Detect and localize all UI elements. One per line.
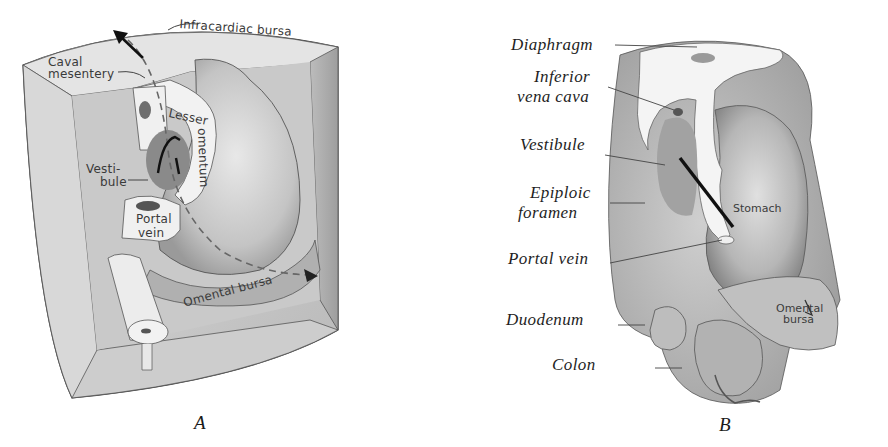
label-duodenum: Duodenum xyxy=(506,311,584,328)
label-omental-bursa-line2: bursa xyxy=(783,314,814,325)
label-epiploic-foramen-line1: Epiploic xyxy=(530,184,591,201)
label-epiploic-foramen-line2: foramen xyxy=(518,204,577,221)
label-diaphragm: Diaphragm xyxy=(511,36,593,53)
label-inferior-vena-cava-line2: vena cava xyxy=(517,88,589,105)
figure-a-caption: A xyxy=(194,412,206,434)
figure-b-specimen-view: Diaphragm Inferior vena cava Vestibule E… xyxy=(460,0,888,447)
label-vestibule-line1: Vesti- xyxy=(86,163,120,175)
label-vestibule-line2: bule xyxy=(100,176,127,188)
figure-b-illustration xyxy=(460,0,888,447)
label-inferior-vena-cava-line1: Inferior xyxy=(534,68,590,85)
figure-a-omental-bursa-cutaway: Infracardiac bursa Caval mesentery Lesse… xyxy=(0,0,440,447)
label-lesser-omentum-line2: omentum xyxy=(196,128,210,188)
label-portal-vein-line2: vein xyxy=(138,227,164,239)
label-portal-vein: Portal vein xyxy=(508,250,588,267)
label-caval-mesentery-line2: mesentery xyxy=(48,68,114,80)
label-colon: Colon xyxy=(552,356,596,373)
label-stomach: Stomach xyxy=(733,203,782,214)
label-vestibule: Vestibule xyxy=(520,136,585,153)
label-portal-vein-line1: Portal xyxy=(136,213,172,225)
figure-b-caption: B xyxy=(719,414,731,436)
